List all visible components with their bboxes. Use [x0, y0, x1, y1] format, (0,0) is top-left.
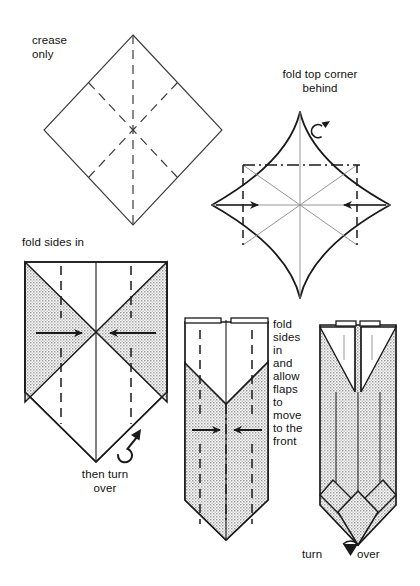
instruction-sheet: crease only fold top corner behind fold …: [0, 0, 420, 586]
step-1-crease-only-diagram: [44, 35, 222, 225]
caption-turn: turn: [302, 548, 322, 562]
step-4-allow-flaps-diagram: [185, 318, 268, 540]
caption-over: over: [357, 548, 380, 562]
step-5-turn-over-arrow-icon: [343, 541, 358, 556]
step-2-fold-behind-arrow-icon: [312, 121, 330, 138]
caption-fold-sides-in: fold sides in: [22, 236, 84, 250]
caption-crease-only: crease only: [32, 34, 67, 61]
caption-then-turn-over: then turn over: [55, 468, 155, 495]
step-2-fold-top-corner-diagram: [212, 112, 390, 298]
caption-fold-sides-in-allow-flaps: fold sides in and allow flaps to move to…: [273, 318, 302, 448]
step-3-fold-sides-in-diagram: [25, 262, 167, 462]
caption-fold-top-corner-behind: fold top corner behind: [257, 68, 383, 95]
step-5-turn-over-result-diagram: [320, 321, 396, 556]
